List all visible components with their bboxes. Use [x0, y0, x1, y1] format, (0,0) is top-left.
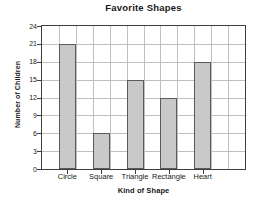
y-tick-label: 21: [17, 40, 37, 47]
chart-title: Favorite Shapes: [41, 1, 246, 15]
y-tick-label: 0: [17, 166, 37, 173]
y-tick-mark: [37, 115, 41, 116]
bar: [160, 98, 177, 170]
x-tick-label: Heart: [194, 172, 212, 182]
gridline-vertical: [211, 26, 212, 169]
x-axis-title: Kind of Shape: [41, 186, 246, 195]
y-tick-label: 15: [17, 76, 37, 83]
y-tick-mark: [37, 98, 41, 99]
y-tick-label: 24: [17, 23, 37, 30]
y-tick-label: 18: [17, 58, 37, 65]
plot-area: [41, 25, 246, 170]
y-tick-label: 12: [17, 94, 37, 101]
gridline-vertical: [144, 26, 145, 169]
gridline-vertical: [76, 26, 77, 169]
y-tick-label: 9: [17, 112, 37, 119]
y-tick-mark: [37, 169, 41, 170]
x-tick-label: Rectangle: [152, 172, 186, 182]
x-tick-label: Square: [89, 172, 113, 182]
y-tick-mark: [37, 80, 41, 81]
gridline-vertical: [228, 26, 229, 169]
y-tick-mark: [37, 26, 41, 27]
x-tick-label: Triangle: [122, 172, 149, 182]
bar-chart: Favorite Shapes Number of Children 03691…: [0, 0, 256, 203]
y-tick-mark: [37, 151, 41, 152]
bar: [127, 80, 144, 169]
y-tick-label: 3: [17, 148, 37, 155]
y-tick-mark: [37, 44, 41, 45]
bar: [194, 62, 211, 169]
y-tick-label: 6: [17, 130, 37, 137]
x-tick-label: Circle: [58, 172, 77, 182]
bar: [93, 133, 110, 169]
bar: [59, 44, 76, 169]
gridline-vertical: [177, 26, 178, 169]
y-tick-mark: [37, 62, 41, 63]
gridline-vertical: [110, 26, 111, 169]
y-tick-mark: [37, 133, 41, 134]
